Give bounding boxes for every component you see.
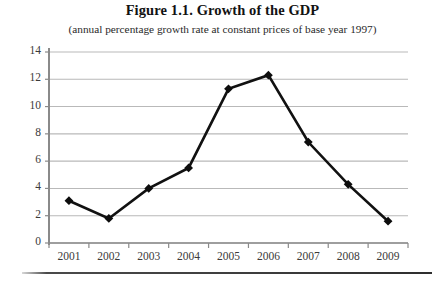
data-point-marker — [224, 84, 233, 93]
y-axis-tick-label: 12 — [15, 71, 41, 83]
data-markers-group — [65, 71, 393, 226]
y-axis-tick-label: 8 — [15, 126, 41, 138]
figure-container: Figure 1.1. Growth of the GDP (annual pe… — [0, 0, 445, 282]
plot-area: 02468101214 2001200220032004200520062007… — [0, 0, 445, 282]
data-point-marker — [184, 164, 193, 173]
y-axis-tick-label: 10 — [15, 99, 41, 111]
gridlines-group — [49, 52, 408, 243]
x-axis-tick-label: 2009 — [365, 250, 411, 262]
data-point-marker — [65, 196, 74, 205]
y-axis-tick-label: 14 — [15, 44, 41, 56]
data-line — [69, 75, 388, 221]
bottom-divider — [22, 272, 432, 274]
y-axis-tick-label: 6 — [15, 153, 41, 165]
y-axis-tick-label: 0 — [15, 235, 41, 247]
y-axis-tick-label: 2 — [15, 208, 41, 220]
y-axis-tick-label: 4 — [15, 180, 41, 192]
chart-svg — [0, 0, 445, 282]
